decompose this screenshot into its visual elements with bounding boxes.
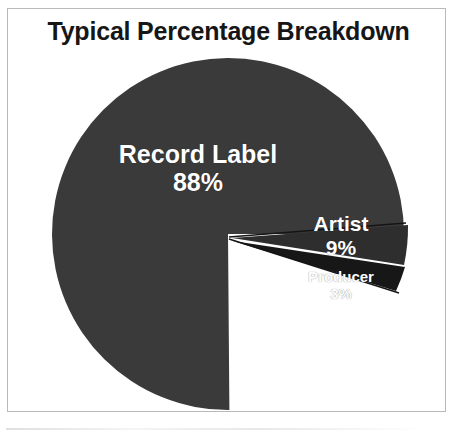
pie-chart: Record Label 88% Artist 9% Producer 3% [0,0,457,438]
pie-label-record-label-name: Record Label [119,140,277,168]
pie-label-artist-name: Artist [314,212,369,235]
pie-label-producer: Producer 3% [285,269,397,303]
chart-page: Typical Percentage Breakdown Record Labe… [0,0,457,438]
pie-label-record-label-value: 88% [88,168,308,196]
scan-artifact-line [6,428,426,430]
pie-label-producer-name: Producer [308,268,374,285]
pie-label-artist: Artist 9% [285,212,397,259]
pie-label-producer-value: 3% [285,286,397,303]
pie-label-record-label: Record Label 88% [88,140,308,196]
pie-label-artist-value: 9% [285,236,397,260]
